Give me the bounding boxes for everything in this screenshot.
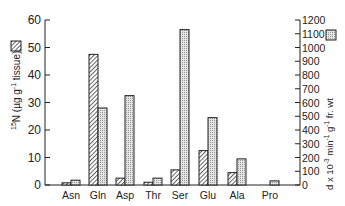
right-tick-label: 1000 xyxy=(302,42,326,54)
left-tick-label: 10 xyxy=(28,151,42,165)
bar-d-thr xyxy=(153,178,162,185)
bar-d-glu xyxy=(208,118,217,185)
right-tick-label: 600 xyxy=(302,97,320,109)
left-tick-label: 20 xyxy=(28,123,42,137)
bar-d-ser xyxy=(180,30,189,185)
bar-15n-ala xyxy=(228,173,237,185)
axis-titles: 15N (µg g-1 tissue)d x 10-3 min-1 g-1 fr… xyxy=(10,30,336,190)
bar-d-ala xyxy=(237,159,246,185)
bar-15n-asp xyxy=(116,178,125,185)
bar-d-pro xyxy=(270,181,279,185)
x-label-ala: Ala xyxy=(229,189,244,201)
left-tick-label: 50 xyxy=(28,41,42,55)
x-label-gln: Gln xyxy=(90,189,107,201)
left-tick-label: 30 xyxy=(28,96,42,110)
right-tick-label: 1100 xyxy=(302,28,325,40)
right-tick-label: 100 xyxy=(302,165,320,177)
bars xyxy=(62,30,279,185)
x-label-ser: Ser xyxy=(172,189,189,201)
left-tick-label: 0 xyxy=(34,178,41,192)
svg-text:15N (µg g-1 tissue): 15N (µg g-1 tissue) xyxy=(10,51,22,130)
right-tick-label: 800 xyxy=(302,69,320,81)
svg-text:d x 10-3 min-1 g-1 fr. wt: d x 10-3 min-1 g-1 fr. wt xyxy=(323,98,335,190)
right-tick-label: 700 xyxy=(302,83,320,95)
left-axis-title: 15N (µg g-1 tissue) xyxy=(10,51,22,130)
x-label-asn: Asn xyxy=(62,189,80,201)
bar-d-asn xyxy=(71,180,80,185)
right-tick-label: 400 xyxy=(302,124,320,136)
bar-15n-glu xyxy=(199,151,208,185)
bar-chart: 0102030405060 01002003004005006007008009… xyxy=(0,0,345,206)
right-tick-label: 200 xyxy=(302,152,320,164)
x-axis-labels: AsnGlnAspThrSerGluAlaPro xyxy=(62,189,278,201)
left-y-axis: 0102030405060 xyxy=(28,13,300,192)
bar-d-gln xyxy=(98,108,107,185)
x-label-pro: Pro xyxy=(262,189,279,201)
right-tick-label: 1200 xyxy=(302,14,326,26)
bar-15n-gln xyxy=(89,54,98,185)
right-y-axis: 0100200300400500600700800900100011001200 xyxy=(295,14,326,191)
right-tick-label: 300 xyxy=(302,138,320,150)
left-tick-label: 40 xyxy=(28,68,42,82)
legend-hatched-swatch xyxy=(11,41,21,51)
right-tick-label: 500 xyxy=(302,110,320,122)
bar-15n-thr xyxy=(144,182,153,185)
legend-stippled-swatch xyxy=(326,30,336,40)
right-axis-title: d x 10-3 min-1 g-1 fr. wt xyxy=(323,98,335,190)
bar-15n-ser xyxy=(171,170,180,185)
x-label-asp: Asp xyxy=(116,189,134,201)
bar-d-asp xyxy=(125,96,134,185)
x-label-glu: Glu xyxy=(200,189,217,201)
right-tick-label: 0 xyxy=(302,179,308,191)
x-label-thr: Thr xyxy=(145,189,161,201)
right-tick-label: 900 xyxy=(302,55,320,67)
left-tick-label: 60 xyxy=(28,13,42,27)
bar-15n-asn xyxy=(62,183,71,185)
